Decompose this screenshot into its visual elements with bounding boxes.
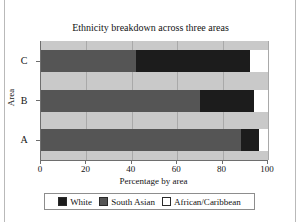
legend-item: White — [58, 197, 92, 207]
page-rule-right — [295, 0, 296, 222]
y-axis-label: Area — [6, 73, 17, 123]
plot-area — [40, 41, 268, 160]
legend-swatch — [58, 197, 67, 206]
chart-title: Ethnicity breakdown across three areas — [20, 22, 281, 34]
y-tick — [36, 100, 40, 101]
legend-label: African/Caribbean — [174, 197, 241, 207]
legend-label: South Asian — [111, 197, 155, 207]
bar-segment — [241, 129, 259, 151]
y-tick — [36, 140, 40, 141]
x-tick-label: 100 — [252, 164, 282, 175]
legend-item: South Asian — [99, 197, 155, 207]
bar-b — [41, 90, 268, 112]
bar-segment — [254, 90, 268, 112]
chart-figure: Ethnicity breakdown across three areas P… — [0, 0, 299, 222]
legend-label: White — [70, 197, 92, 207]
x-tick-label: 20 — [70, 164, 100, 175]
chart-legend: WhiteSouth AsianAfrican/Caribbean — [44, 193, 255, 210]
y-tick-label-b: B — [16, 95, 32, 107]
bar-segment — [41, 129, 241, 151]
bar-segment — [200, 90, 254, 112]
bar-c — [41, 50, 268, 72]
y-tick-label-c: C — [16, 55, 32, 67]
bar-a — [41, 129, 268, 151]
y-tick — [36, 61, 40, 62]
legend-item: African/Caribbean — [162, 197, 241, 207]
bar-segment — [41, 50, 136, 72]
legend-swatch — [99, 197, 108, 206]
gridline — [268, 41, 269, 160]
bar-segment — [136, 50, 250, 72]
x-axis-label: Percentage by area — [40, 176, 267, 187]
x-tick-label: 80 — [207, 164, 237, 175]
bar-segment — [259, 129, 268, 151]
x-tick-label: 60 — [161, 164, 191, 175]
x-tick-label: 0 — [25, 164, 55, 175]
legend-swatch — [162, 197, 171, 206]
bar-segment — [41, 90, 200, 112]
x-tick-label: 40 — [116, 164, 146, 175]
y-tick-label-a: A — [16, 134, 32, 146]
x-axis-line — [40, 160, 268, 161]
bar-segment — [250, 50, 268, 72]
